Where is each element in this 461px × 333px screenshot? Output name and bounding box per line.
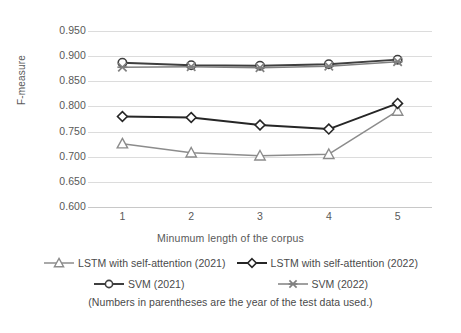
legend-item-label: LSTM with self-attention (2021) xyxy=(78,257,225,269)
chart-legend: LSTM with self-attention (2021)LSTM with… xyxy=(0,252,461,294)
legend-marker-diamond xyxy=(236,256,268,270)
legend-marker-triangle xyxy=(43,256,75,270)
legend-marker-cross xyxy=(277,277,309,291)
data-point-triangle-marker xyxy=(117,138,127,147)
data-point-diamond-marker xyxy=(393,99,403,109)
chart-caption: (Numbers in parentheses are the year of … xyxy=(0,296,461,308)
legend-item[interactable]: LSTM with self-attention (2021) xyxy=(43,256,225,270)
data-point-diamond-marker xyxy=(247,258,256,267)
legend-item[interactable]: SVM (2022) xyxy=(277,277,369,291)
data-point-diamond-marker xyxy=(324,124,334,134)
legend-marker-circle xyxy=(93,277,125,291)
legend-item-label: SVM (2021) xyxy=(128,278,185,290)
legend-item-label: LSTM with self-attention (2022) xyxy=(271,257,418,269)
legend-item[interactable]: SVM (2021) xyxy=(93,277,185,291)
data-point-diamond-marker xyxy=(255,120,265,130)
data-point-circle-marker xyxy=(118,58,126,66)
data-point-circle-marker xyxy=(187,61,195,69)
chart-container: F-measure 0.9500.9000.8500.8000.7500.700… xyxy=(0,0,461,333)
legend-row-1: LSTM with self-attention (2021)LSTM with… xyxy=(0,252,461,273)
x-axis-title: Minumum length of the corpus xyxy=(0,232,461,244)
series-line xyxy=(117,106,403,160)
legend-row-2: SVM (2021)SVM (2022) xyxy=(0,273,461,294)
data-point-cross-marker xyxy=(288,280,297,287)
legend-item-label: SVM (2022) xyxy=(312,278,369,290)
series-line xyxy=(118,99,403,134)
data-point-diamond-marker xyxy=(118,112,128,122)
data-point-diamond-marker xyxy=(186,113,196,123)
legend-item[interactable]: LSTM with self-attention (2022) xyxy=(236,256,418,270)
data-point-circle-marker xyxy=(105,280,112,287)
